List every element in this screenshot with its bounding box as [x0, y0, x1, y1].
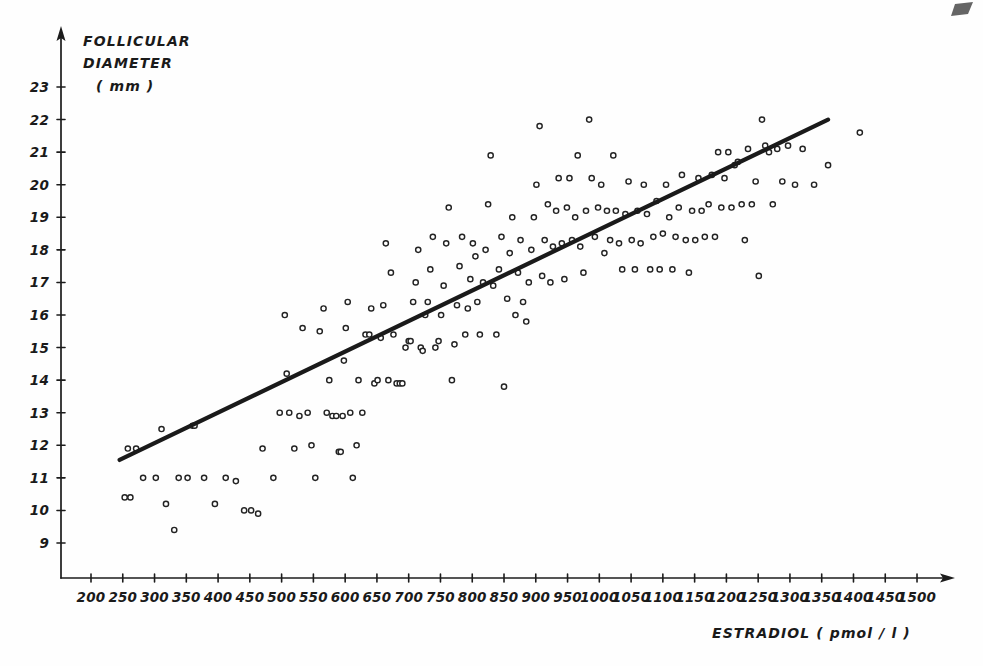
data-point — [381, 303, 386, 308]
y-tick-label: 20 — [30, 177, 49, 193]
data-point — [260, 446, 265, 451]
data-point — [683, 237, 688, 242]
data-point — [644, 211, 649, 216]
x-tick-label: 900 — [521, 589, 550, 605]
data-point — [499, 234, 504, 239]
data-point — [486, 202, 491, 207]
x-tick-label: 500 — [267, 589, 296, 605]
data-point — [475, 299, 480, 304]
data-point — [620, 267, 625, 272]
data-point — [641, 182, 646, 187]
data-point — [537, 123, 542, 128]
x-tick-label: 450 — [234, 589, 264, 605]
data-point — [341, 358, 346, 363]
data-point — [473, 254, 478, 259]
data-point — [416, 247, 421, 252]
x-tick-label: 200 — [77, 589, 106, 605]
data-point — [722, 176, 727, 181]
data-point — [313, 475, 318, 480]
data-point — [811, 182, 816, 187]
data-point — [510, 215, 515, 220]
data-point — [300, 325, 305, 330]
y-tick-label: 23 — [30, 79, 49, 95]
data-point — [153, 475, 158, 480]
y-caption-line-3: ( mm ) — [96, 78, 154, 94]
data-point — [583, 208, 588, 213]
data-point — [562, 277, 567, 282]
data-point — [729, 205, 734, 210]
data-point — [256, 511, 261, 516]
x-tick-label: 650 — [363, 589, 392, 605]
y-tick-label: 22 — [30, 112, 49, 128]
data-point — [463, 332, 468, 337]
data-point — [629, 237, 634, 242]
data-point — [554, 208, 559, 213]
y-tick-label: 18 — [30, 242, 49, 258]
data-point — [163, 501, 168, 506]
x-axis: 2002503003504004505005506006507007508008… — [61, 574, 955, 606]
data-point — [611, 153, 616, 158]
data-point — [284, 371, 289, 376]
data-point — [367, 332, 372, 337]
data-point — [679, 172, 684, 177]
plot-canvas: 91011121314151617181920212223 2002503003… — [0, 0, 983, 666]
data-point — [699, 208, 704, 213]
data-point — [128, 495, 133, 500]
data-point — [726, 150, 731, 155]
y-caption-line-1: FOLLICULAR — [83, 33, 191, 49]
data-point — [567, 176, 572, 181]
data-point — [277, 410, 282, 415]
y-tick-label: 21 — [30, 144, 49, 160]
data-point — [297, 413, 302, 418]
data-point — [613, 208, 618, 213]
data-point — [638, 241, 643, 246]
data-point — [602, 251, 607, 256]
data-point — [321, 306, 326, 311]
data-point — [505, 296, 510, 301]
data-point — [651, 234, 656, 239]
data-point — [857, 130, 862, 135]
data-point — [526, 280, 531, 285]
data-point — [428, 267, 433, 272]
data-point — [673, 234, 678, 239]
data-point — [452, 342, 457, 347]
data-point — [420, 348, 425, 353]
data-point — [534, 182, 539, 187]
data-point — [749, 202, 754, 207]
data-point — [589, 176, 594, 181]
data-point — [282, 312, 287, 317]
data-point — [507, 251, 512, 256]
x-tick-label: 350 — [172, 589, 201, 605]
y-axis: 91011121314151617181920212223 — [30, 26, 66, 578]
data-point — [491, 283, 496, 288]
data-point — [212, 501, 217, 506]
data-point — [513, 312, 518, 317]
data-point — [759, 117, 764, 122]
data-point — [388, 270, 393, 275]
data-point — [334, 413, 339, 418]
data-point — [756, 273, 761, 278]
data-point — [753, 179, 758, 184]
data-point — [581, 270, 586, 275]
data-point — [360, 410, 365, 415]
data-point — [233, 479, 238, 484]
data-point — [436, 338, 441, 343]
data-point — [340, 413, 345, 418]
x-tick-label: 300 — [140, 589, 169, 605]
data-point — [338, 449, 343, 454]
data-point — [587, 117, 592, 122]
data-point — [660, 231, 665, 236]
data-point — [242, 508, 247, 513]
y-tick-label: 19 — [30, 209, 49, 225]
data-point — [548, 280, 553, 285]
data-point — [742, 237, 747, 242]
data-point — [287, 410, 292, 415]
paper-artifacts — [951, 2, 973, 16]
y-tick-label: 9 — [39, 535, 49, 551]
data-point — [632, 267, 637, 272]
data-point — [383, 241, 388, 246]
data-point — [616, 241, 621, 246]
data-point — [657, 267, 662, 272]
y-tick-label: 10 — [30, 502, 49, 518]
data-point — [608, 237, 613, 242]
